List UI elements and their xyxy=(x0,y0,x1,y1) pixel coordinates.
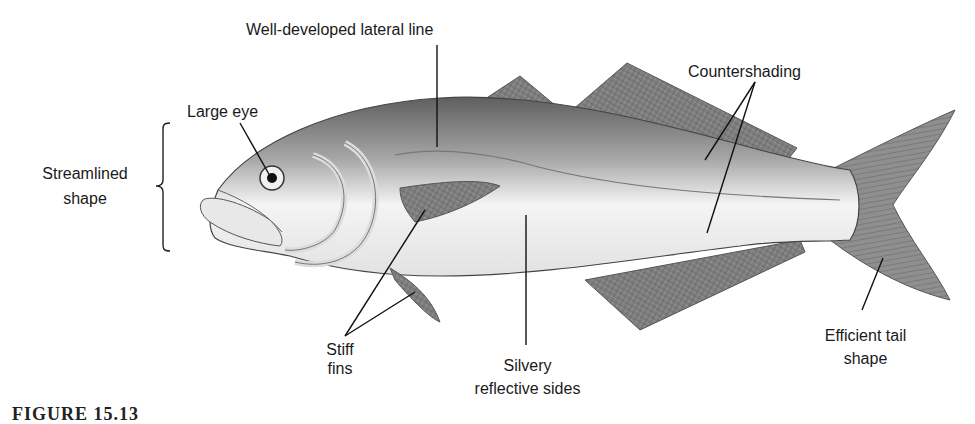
figure-caption: FIGURE 15.13 xyxy=(12,404,139,424)
label-silvery-sides: Silvery reflective sides xyxy=(460,356,595,398)
label-tail-line2: shape xyxy=(808,349,923,368)
label-large-eye: Large eye xyxy=(187,102,258,121)
label-streamlined-shape: Streamlined shape xyxy=(22,164,148,208)
label-tail-line1: Efficient tail xyxy=(808,326,923,345)
label-efficient-tail: Efficient tail shape xyxy=(808,326,923,368)
streamlined-brace xyxy=(156,123,170,251)
label-countershading: Countershading xyxy=(688,62,801,81)
eye xyxy=(260,166,284,190)
label-stiff-line2: fins xyxy=(310,359,370,378)
label-streamlined-line1: Streamlined xyxy=(22,164,148,183)
label-lateral-line: Well-developed lateral line xyxy=(246,20,433,39)
label-silvery-line2: reflective sides xyxy=(460,379,595,398)
label-silvery-line1: Silvery xyxy=(460,356,595,375)
label-stiff-fins: Stiff fins xyxy=(310,340,370,378)
label-stiff-line1: Stiff xyxy=(310,340,370,359)
leader-stiff-fin-pelvic xyxy=(345,292,415,336)
label-streamlined-line2: shape xyxy=(22,189,148,208)
